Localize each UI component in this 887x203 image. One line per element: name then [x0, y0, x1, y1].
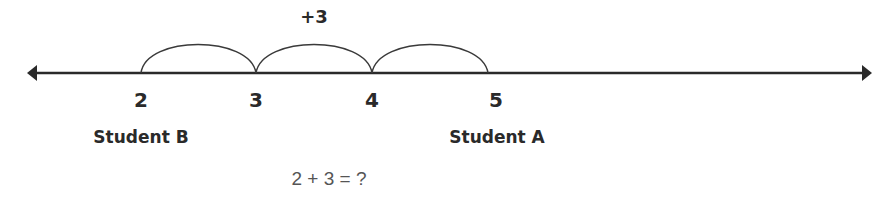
equation: 2 + 3 = ?	[291, 168, 366, 190]
tick-label-4: 4	[365, 88, 379, 112]
tick-label-2: 2	[134, 88, 148, 112]
student-b-label: Student B	[93, 127, 188, 147]
jump-arc-3	[372, 45, 488, 74]
tick-label-3: 3	[249, 88, 263, 112]
tick-label-5: 5	[489, 88, 503, 112]
student-a-label: Student A	[449, 127, 544, 147]
jump-arc-1	[141, 45, 256, 74]
right-arrow-icon	[862, 65, 872, 81]
jump-label: +3	[300, 6, 328, 27]
jump-arc-2	[256, 45, 372, 74]
left-arrow-icon	[27, 65, 37, 81]
